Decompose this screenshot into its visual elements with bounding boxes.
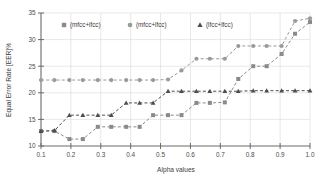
data-point	[39, 78, 43, 82]
x-tick-label: 0.4	[126, 151, 135, 158]
data-point	[138, 125, 142, 129]
data-point	[236, 44, 240, 48]
data-point	[280, 44, 284, 48]
data-point	[166, 113, 170, 117]
data-point	[208, 101, 212, 105]
axis-ticks	[38, 13, 310, 149]
data-point	[251, 64, 255, 68]
data-point	[194, 101, 198, 105]
data-point	[265, 44, 269, 48]
chart-container: 1015202530350.10.20.30.40.50.60.70.80.91…	[0, 0, 321, 178]
x-tick-label: 0.2	[66, 151, 75, 158]
data-point	[308, 20, 312, 24]
data-point	[151, 78, 155, 82]
data-point	[52, 78, 56, 82]
x-tick-label: 0.6	[186, 151, 195, 158]
data-point	[293, 19, 297, 23]
legend-label: (mfcc+lfcc)	[136, 21, 167, 29]
data-point	[96, 125, 100, 129]
series-triangle	[39, 88, 313, 133]
data-point	[124, 78, 128, 82]
data-point	[194, 57, 198, 61]
data-point	[67, 78, 71, 82]
data-point	[96, 78, 100, 82]
data-point	[280, 52, 284, 56]
data-point	[109, 78, 113, 82]
legend-marker-triangle	[197, 22, 202, 27]
data-point	[80, 113, 85, 117]
data-point	[81, 137, 85, 141]
y-tick-label: 20	[28, 89, 36, 96]
data-point	[166, 89, 171, 93]
y-tick-label: 35	[28, 9, 36, 16]
x-tick-label: 0.1	[37, 151, 46, 158]
data-point	[251, 44, 255, 48]
x-tick-label: 1.0	[306, 151, 315, 158]
data-point	[67, 137, 71, 141]
legend-marker-square	[62, 23, 66, 27]
legend-item-0: (mfcc+lfcc)	[62, 21, 101, 29]
eer-vs-alpha-line-chart: 1015202530350.10.20.30.40.50.60.70.80.91…	[0, 0, 321, 178]
y-tick-label: 30	[28, 36, 36, 43]
data-series	[39, 16, 313, 141]
x-tick-label: 0.3	[96, 151, 105, 158]
x-tick-label: 0.8	[246, 151, 255, 158]
legend-label: (mfcc+lfcc)	[70, 21, 101, 29]
data-point	[179, 113, 183, 117]
x-tick-label: 0.5	[156, 151, 165, 158]
x-axis-title: Alpha values	[157, 166, 195, 174]
data-point	[138, 78, 142, 82]
data-point	[179, 68, 183, 72]
data-point	[236, 77, 240, 81]
legend-label: (lfcc+lfcc)	[206, 21, 233, 29]
data-point	[81, 78, 85, 82]
data-point	[223, 57, 227, 61]
data-point	[109, 125, 113, 129]
y-axis-title: Equal Error Rate [EER]%	[5, 43, 13, 117]
y-tick-label: 10	[28, 142, 36, 149]
data-point	[124, 100, 129, 104]
axis-tick-labels: 1015202530350.10.20.30.40.50.60.70.80.91…	[28, 9, 314, 158]
data-point	[223, 100, 227, 104]
legend-item-2: (lfcc+lfcc)	[197, 21, 232, 29]
data-point	[265, 64, 269, 68]
series-square	[39, 20, 312, 141]
y-tick-label: 15	[28, 116, 36, 123]
data-point	[124, 125, 128, 129]
data-point	[208, 57, 212, 61]
legend-item-1: (mfcc+lfcc)	[128, 21, 167, 29]
x-tick-label: 0.9	[276, 151, 285, 158]
chart-legend: (mfcc+lfcc)(mfcc+lfcc)(lfcc+lfcc)	[62, 21, 233, 29]
data-point	[293, 32, 297, 36]
data-point	[166, 77, 170, 81]
data-point	[151, 113, 155, 117]
data-point	[308, 16, 312, 20]
series-line-triangle	[41, 91, 310, 131]
y-tick-label: 25	[28, 63, 36, 70]
data-point	[264, 88, 269, 92]
x-tick-label: 0.7	[216, 151, 225, 158]
legend-marker-circle	[128, 23, 133, 28]
